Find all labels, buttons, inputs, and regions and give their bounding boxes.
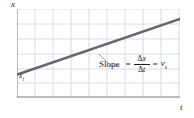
delta-x-over-delta-t-fraction: Δx Δt	[134, 55, 150, 74]
position-time-figure: x t xi Slope = Δx Δt = vx	[0, 0, 194, 118]
initial-position-subscript: i	[23, 76, 25, 82]
denominator-variable: t	[143, 65, 145, 74]
equals-sign-2: =	[153, 60, 158, 69]
numerator-variable: x	[142, 54, 146, 63]
fraction-numerator: Δx	[136, 55, 147, 64]
equals-sign-1: =	[126, 60, 131, 69]
velocity-symbol: vx	[161, 59, 167, 70]
velocity-subscript: x	[165, 64, 167, 70]
axis-lines	[17, 9, 180, 98]
slope-annotation: Slope = Δx Δt = vx	[99, 55, 167, 74]
x-axis-label: t	[180, 103, 183, 112]
fraction-denominator: Δt	[137, 65, 146, 74]
y-axis-label: x	[11, 0, 15, 9]
plot-area	[17, 9, 180, 98]
initial-position-label: xi	[19, 72, 24, 82]
slope-word: Slope	[99, 60, 120, 69]
